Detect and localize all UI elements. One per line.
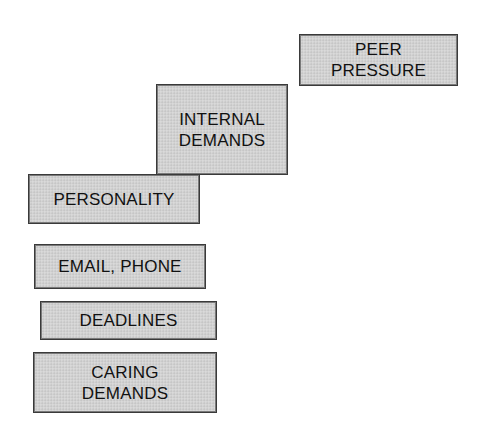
box-label: CARING DEMANDS — [82, 362, 168, 404]
box-label: DEADLINES — [79, 310, 177, 331]
box-label: INTERNAL DEMANDS — [179, 109, 265, 151]
diagram-canvas: PEER PRESSURE INTERNAL DEMANDS PERSONALI… — [0, 0, 482, 440]
box-caring-demands: CARING DEMANDS — [33, 352, 217, 413]
box-label: EMAIL, PHONE — [58, 256, 181, 277]
box-personality: PERSONALITY — [28, 174, 200, 224]
box-internal-demands: INTERNAL DEMANDS — [156, 84, 288, 175]
box-peer-pressure: PEER PRESSURE — [299, 34, 458, 86]
box-deadlines: DEADLINES — [40, 301, 217, 340]
box-label: PERSONALITY — [53, 189, 174, 210]
box-label: PEER PRESSURE — [331, 39, 426, 81]
box-email-phone: EMAIL, PHONE — [34, 244, 206, 289]
